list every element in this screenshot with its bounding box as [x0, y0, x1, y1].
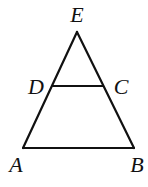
label-D: D [27, 74, 44, 99]
label-E: E [69, 2, 84, 27]
label-B: B [130, 152, 143, 177]
label-C: C [114, 74, 129, 99]
triangle-diagram: E D C A B [0, 0, 148, 187]
label-A: A [7, 152, 23, 177]
